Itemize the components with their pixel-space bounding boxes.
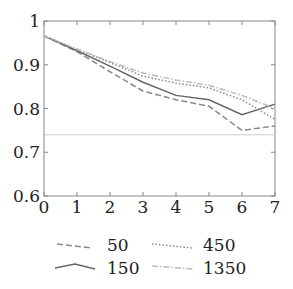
y-tick-label: 0.8	[13, 99, 40, 119]
x-tick-label: 6	[237, 197, 248, 217]
y-tick-label: 0.7	[13, 142, 40, 162]
plot-frame	[44, 21, 275, 196]
y-tick-label: 1	[29, 11, 40, 31]
x-tick-label: 7	[270, 197, 281, 217]
series-lines	[44, 36, 275, 131]
legend-label-450: 450	[203, 235, 235, 255]
series-line-150	[44, 36, 275, 115]
legend-swatch-50	[57, 244, 93, 248]
legend-swatch-150	[55, 264, 95, 269]
x-tick-label: 0	[39, 197, 50, 217]
legend-label-50: 50	[107, 235, 129, 255]
x-tick-label: 1	[72, 197, 83, 217]
series-line-450	[44, 36, 275, 120]
legend-label-1350: 1350	[203, 258, 246, 278]
legend: 50 450 150 1350	[55, 235, 246, 278]
series-line-1350	[44, 36, 275, 109]
x-tick-label: 2	[105, 197, 116, 217]
x-tick-label: 4	[171, 197, 182, 217]
legend-swatch-1350	[152, 266, 193, 269]
y-tick-label: 0.6	[13, 186, 40, 206]
line-chart: 012345670.60.70.80.91 50 450 150 1350	[0, 0, 293, 289]
legend-swatch-450	[152, 244, 193, 248]
axes	[44, 21, 275, 196]
x-tick-label: 5	[204, 197, 215, 217]
y-tick-label: 0.9	[13, 55, 40, 75]
x-tick-label: 3	[138, 197, 149, 217]
legend-label-150: 150	[107, 258, 139, 278]
